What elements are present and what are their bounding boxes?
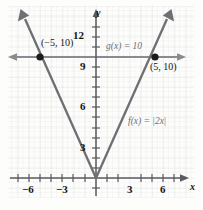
point-marker-left — [36, 53, 43, 60]
point-marker-right — [151, 53, 158, 60]
plot-canvas — [0, 0, 203, 210]
graph-figure: 12 9 6 3 −6 −3 3 6 y x (−5, 10) (5, 10) … — [0, 0, 203, 210]
